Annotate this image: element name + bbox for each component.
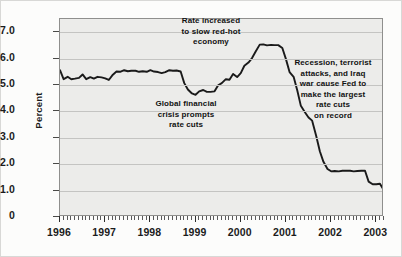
x-axis-minor-tick: [232, 216, 233, 220]
y-axis-tick-mark: [53, 163, 59, 164]
gridline: [60, 164, 382, 165]
x-axis-tick-label: 2003: [350, 226, 400, 238]
x-axis-minor-tick: [368, 216, 369, 220]
x-axis-minor-tick: [127, 216, 128, 220]
annotation-recession-rate-cuts: Recession, terrorist attacks, and Iraq w…: [275, 58, 391, 121]
x-axis-tick-label: 2001: [260, 226, 310, 238]
x-axis-minor-tick: [74, 216, 75, 220]
x-axis-minor-tick: [311, 216, 312, 220]
x-axis-minor-tick: [112, 216, 113, 220]
x-axis-major-tick: [240, 216, 241, 222]
y-axis-tick-label: 7.0: [0, 24, 15, 36]
x-axis-minor-tick: [338, 216, 339, 220]
x-axis-minor-tick: [70, 216, 71, 220]
x-axis-minor-tick: [89, 216, 90, 220]
x-axis-minor-tick: [353, 216, 354, 220]
x-axis-tickmarks: [59, 216, 383, 222]
x-axis-minor-tick: [372, 216, 373, 220]
x-axis-minor-tick: [198, 216, 199, 220]
x-axis-minor-tick: [274, 216, 275, 220]
x-axis-minor-tick: [349, 216, 350, 220]
x-axis-major-tick: [104, 216, 105, 222]
x-axis-minor-tick: [168, 216, 169, 220]
x-axis-minor-tick: [131, 216, 132, 220]
x-axis-tick-label: 1997: [79, 226, 129, 238]
x-axis-minor-tick: [323, 216, 324, 220]
gridline: [60, 138, 382, 139]
x-axis-tick-label: 1999: [170, 226, 220, 238]
x-axis-minor-tick: [85, 216, 86, 220]
x-axis-minor-tick: [164, 216, 165, 220]
x-axis-minor-tick: [221, 216, 222, 220]
x-axis-minor-tick: [63, 216, 64, 220]
x-axis-minor-tick: [146, 216, 147, 220]
x-axis-tick-label: 1996: [34, 226, 84, 238]
x-axis-minor-tick: [134, 216, 135, 220]
y-axis-tick-mark: [53, 110, 59, 111]
y-axis-tick-mark: [53, 31, 59, 32]
x-axis-minor-tick: [281, 216, 282, 220]
x-axis-minor-tick: [300, 216, 301, 220]
x-axis-minor-tick: [180, 216, 181, 220]
x-axis-tick-label: 1998: [124, 226, 174, 238]
x-axis-minor-tick: [259, 216, 260, 220]
y-axis-tick-label: 4.0: [0, 103, 15, 115]
x-axis-minor-tick: [308, 216, 309, 220]
y-axis-tick-label: 5.0: [0, 77, 15, 89]
x-axis-minor-tick: [138, 216, 139, 220]
chart-figure: Percent Rate increased to slow red-hot e…: [0, 0, 402, 257]
x-axis-minor-tick: [360, 216, 361, 220]
annotation-global-financial-crisis: Global financial crisis prompts rate cut…: [132, 99, 240, 131]
x-axis-minor-tick: [296, 216, 297, 220]
x-axis-major-tick: [195, 216, 196, 222]
x-axis-minor-tick: [153, 216, 154, 220]
annotation-rate-increased: Rate increased to slow red-hot economy: [151, 16, 271, 48]
x-axis-minor-tick: [202, 216, 203, 220]
x-axis-minor-tick: [161, 216, 162, 220]
x-axis-minor-tick: [228, 216, 229, 220]
x-axis-major-tick: [330, 216, 331, 222]
y-axis-tick-mark: [53, 84, 59, 85]
x-axis-minor-tick: [142, 216, 143, 220]
y-axis-tick-mark: [53, 58, 59, 59]
x-axis-minor-tick: [266, 216, 267, 220]
x-axis-minor-tick: [251, 216, 252, 220]
y-axis-tick-mark: [53, 190, 59, 191]
x-axis-minor-tick: [210, 216, 211, 220]
y-axis-title: Percent: [33, 66, 44, 156]
x-axis-minor-tick: [379, 216, 380, 220]
x-axis-minor-tick: [236, 216, 237, 220]
x-axis-minor-tick: [217, 216, 218, 220]
x-axis-minor-tick: [183, 216, 184, 220]
x-axis-minor-tick: [277, 216, 278, 220]
y-axis-tick-label: 1.0: [0, 183, 15, 195]
x-axis-minor-tick: [176, 216, 177, 220]
x-axis-minor-tick: [262, 216, 263, 220]
x-axis-minor-tick: [356, 216, 357, 220]
x-axis-tick-label: 2002: [305, 226, 355, 238]
x-axis-minor-tick: [191, 216, 192, 220]
x-axis-minor-tick: [255, 216, 256, 220]
x-axis-minor-tick: [97, 216, 98, 220]
x-axis-minor-tick: [82, 216, 83, 220]
x-axis-tick-label: 2000: [215, 226, 265, 238]
x-axis-minor-tick: [326, 216, 327, 220]
y-axis-tick-mark: [53, 216, 59, 217]
x-axis-minor-tick: [225, 216, 226, 220]
x-axis-minor-tick: [315, 216, 316, 220]
x-axis-minor-tick: [345, 216, 346, 220]
x-axis-minor-tick: [78, 216, 79, 220]
x-axis-minor-tick: [244, 216, 245, 220]
x-axis-minor-tick: [119, 216, 120, 220]
x-axis-minor-tick: [115, 216, 116, 220]
x-axis-minor-tick: [292, 216, 293, 220]
x-axis-minor-tick: [247, 216, 248, 220]
x-axis-minor-tick: [270, 216, 271, 220]
y-axis-tick-label: 6.0: [0, 51, 15, 63]
x-axis-minor-tick: [289, 216, 290, 220]
x-axis-minor-tick: [364, 216, 365, 220]
x-axis-major-tick: [59, 216, 60, 222]
x-axis-minor-tick: [172, 216, 173, 220]
x-axis-minor-tick: [187, 216, 188, 220]
y-axis-tick-label: 2.0: [0, 156, 15, 168]
